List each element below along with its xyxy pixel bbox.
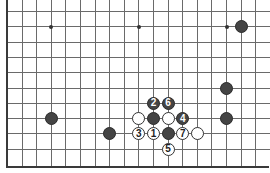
move-number: 1 [151,129,157,139]
grid-line-vertical [124,0,125,166]
black-stone [147,112,160,125]
white-stone [132,112,145,125]
grid-line-vertical [182,0,183,166]
black-stone [220,112,233,125]
grid-line-vertical [255,0,256,166]
black-stone-move-4: 4 [176,112,189,125]
board-edge-left [6,0,8,168]
board-edge-bottom [6,166,269,168]
grid-line-vertical [22,0,23,166]
black-stone [220,82,233,95]
black-stone [235,20,248,33]
star-point [137,25,141,29]
grid-line-vertical [168,0,169,166]
white-stone [191,127,204,140]
grid-line-vertical [197,0,198,166]
black-stone [162,127,175,140]
grid-line-vertical [80,0,81,166]
move-number: 2 [151,98,157,108]
move-number: 5 [165,144,171,154]
grid-line-vertical [36,0,37,166]
star-point [225,25,229,29]
move-number: 3 [136,129,142,139]
grid-line-vertical [65,0,66,166]
move-number: 6 [165,98,171,108]
white-stone-move-3: 3 [132,127,145,140]
white-stone-move-1: 1 [147,127,160,140]
grid-line-vertical [153,0,154,166]
grid-line-vertical [95,0,96,166]
white-stone-move-5: 5 [162,143,175,156]
go-board-diagram: 2643175 [0,0,270,173]
black-stone [45,112,58,125]
white-stone-move-7: 7 [176,127,189,140]
black-stone-move-2: 2 [147,97,160,110]
move-number: 4 [180,114,186,124]
black-stone [103,127,116,140]
move-number: 7 [180,129,186,139]
white-stone [162,112,175,125]
star-point [49,25,53,29]
grid-line-vertical [211,0,212,166]
grid-line-vertical [109,0,110,166]
black-stone-move-6: 6 [162,97,175,110]
